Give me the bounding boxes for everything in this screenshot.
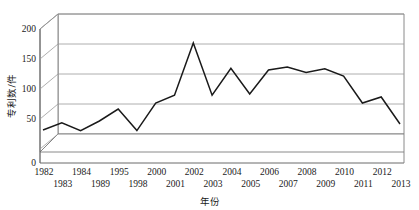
x-tick-1989: 1989 [91, 179, 110, 189]
x-tick-2011: 2011 [354, 179, 373, 189]
x-tick-labels-upper: 1982198419952000200220042006200820102012 [35, 167, 392, 177]
x-tick-2002: 2002 [185, 167, 204, 177]
x-tick-2009: 2009 [316, 179, 335, 189]
x-tick-1998: 1998 [128, 179, 147, 189]
x-tick-2008: 2008 [298, 167, 317, 177]
x-tick-2003: 2003 [204, 179, 223, 189]
x-tick-2012: 2012 [373, 167, 392, 177]
x-tick-2010: 2010 [335, 167, 354, 177]
chart-container: 200 150 100 50 0 专利数/件 19821984199520002… [0, 0, 419, 210]
x-tick-1995: 1995 [110, 167, 129, 177]
x-tick-2001: 2001 [166, 179, 185, 189]
x-tick-2007: 2007 [279, 179, 298, 189]
y-tick-200: 200 [22, 24, 37, 34]
x-tick-1983: 1983 [53, 179, 72, 189]
left-wall [40, 14, 58, 152]
y-tick-50: 50 [27, 114, 37, 124]
x-tick-2000: 2000 [147, 167, 166, 177]
floor-panel [40, 134, 404, 152]
x-tick-2006: 2006 [260, 167, 279, 177]
y-tick-100: 100 [22, 84, 37, 94]
x-axis-title: 年份 [200, 196, 220, 207]
y-tick-150: 150 [22, 54, 37, 64]
x-tick-2005: 2005 [241, 179, 260, 189]
chart-3d-frame [40, 14, 404, 163]
x-tick-2013: 2013 [392, 179, 411, 189]
x-tick-labels-lower: 1983198919982001200320052007200920112013 [53, 179, 410, 189]
x-tick-2004: 2004 [222, 167, 241, 177]
y-axis-title: 专利数/件 [6, 74, 17, 117]
line-chart-svg: 200 150 100 50 0 专利数/件 19821984199520002… [0, 0, 419, 210]
x-tick-1984: 1984 [72, 167, 91, 177]
y-tick-labels: 200 150 100 50 0 [22, 24, 37, 168]
x-tick-1982: 1982 [35, 167, 54, 177]
